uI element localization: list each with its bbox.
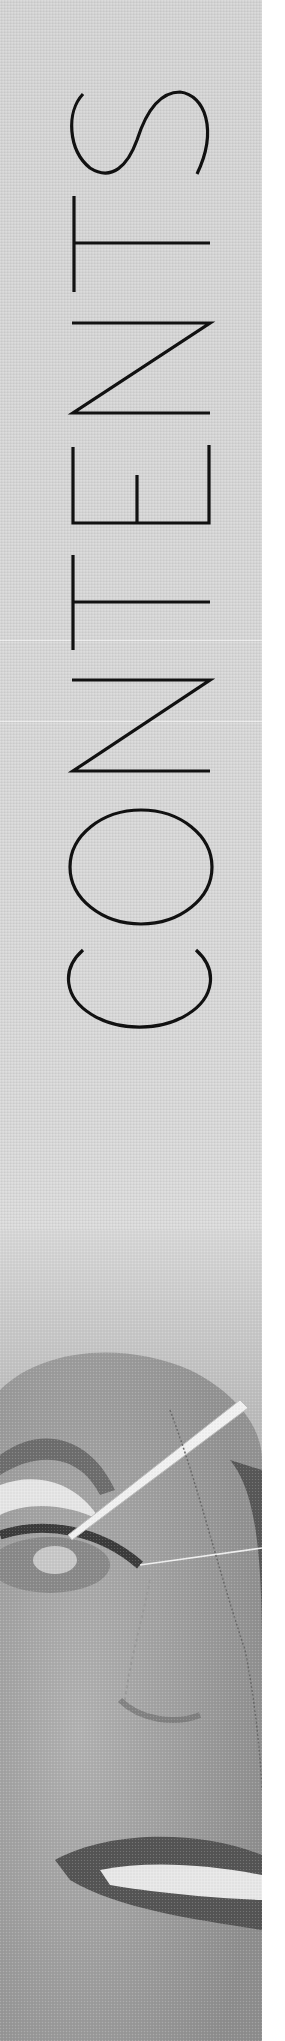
contents-heading: CONTENTS <box>60 80 220 1060</box>
letter-o <box>70 810 212 924</box>
letter-s <box>72 92 208 174</box>
letter-t <box>74 196 210 292</box>
letter-n <box>72 323 210 413</box>
doll-face-photo <box>0 1230 262 2041</box>
letter-e <box>73 445 209 523</box>
letter-c <box>69 950 211 1027</box>
contents-heading-glyphs <box>60 80 220 1060</box>
letter-t <box>73 555 210 650</box>
letter-n <box>72 680 210 771</box>
doll-face-illustration <box>0 1230 262 2041</box>
